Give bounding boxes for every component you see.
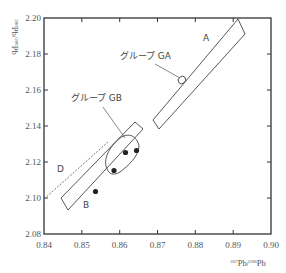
svg-text:2.16: 2.16 — [25, 85, 41, 95]
svg-text:0.86: 0.86 — [112, 240, 128, 250]
svg-text:0.90: 0.90 — [263, 240, 279, 250]
data-point — [123, 150, 128, 155]
data-points — [93, 148, 139, 194]
x-axis-title: 207Pb/206Pb — [230, 258, 265, 268]
svg-text:0.84: 0.84 — [36, 240, 52, 250]
svg-text:2.12: 2.12 — [25, 157, 41, 167]
svg-text:0.87: 0.87 — [150, 240, 166, 250]
group-gb-ellipse — [106, 135, 139, 174]
group-ga-ellipse — [177, 75, 188, 86]
svg-text:0.89: 0.89 — [225, 240, 241, 250]
group-gb-leader — [103, 107, 125, 138]
svg-text:0.85: 0.85 — [74, 240, 90, 250]
region-a — [153, 19, 245, 129]
data-point — [134, 148, 139, 153]
region-a-label: A — [203, 33, 210, 43]
svg-text:2.14: 2.14 — [25, 121, 41, 131]
svg-text:2.10: 2.10 — [25, 193, 41, 203]
svg-text:2.20: 2.20 — [25, 13, 41, 23]
group-ga-leader — [155, 64, 180, 78]
y-axis-title: 208Pb/206Pb — [10, 19, 20, 54]
line-d — [44, 142, 108, 199]
y-tick-labels: 2.08 2.10 2.12 2.14 2.16 2.18 2.20 — [25, 13, 41, 239]
group-ga-label: グループ GA — [120, 50, 172, 61]
svg-text:2.18: 2.18 — [25, 49, 41, 59]
region-b-label: B — [83, 200, 89, 210]
group-gb-label: グループ GB — [71, 92, 122, 103]
data-point — [93, 189, 98, 194]
x-tick-labels: 0.84 0.85 0.86 0.87 0.88 0.89 0.90 — [36, 240, 279, 250]
data-point — [111, 168, 116, 173]
lead-isotope-chart: 0.84 0.85 0.86 0.87 0.88 0.89 0.90 2.08 … — [0, 0, 286, 273]
line-d-label: D — [57, 164, 64, 174]
svg-text:0.88: 0.88 — [187, 240, 203, 250]
svg-text:2.08: 2.08 — [25, 229, 41, 239]
